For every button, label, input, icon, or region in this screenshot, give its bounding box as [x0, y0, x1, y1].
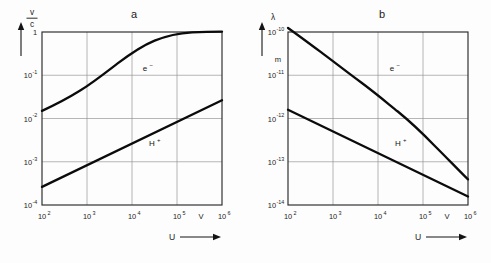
panel-a-ytick-1-exp: -1 — [33, 69, 38, 75]
figure-svg: a v c — [0, 0, 491, 263]
panel-a-yaxis-numerator: v — [30, 7, 35, 17]
panel-a-curve-label-electron: e − — [143, 62, 154, 74]
panel-a-xaxis-unit: V — [198, 212, 204, 221]
panel-b-ytick-1: 10 — [268, 71, 276, 80]
panel-a-title: a — [131, 8, 138, 20]
panel-b-ytick-labels: 10 -10 10 -11 10 -12 10 -13 10 -14 — [268, 26, 285, 210]
figure-container: a v c — [0, 0, 491, 263]
panel-a-ytick-4-exp: -4 — [33, 199, 38, 205]
panel-b-xtick-2: 10 — [374, 212, 382, 221]
panel-a-yaxis-denominator: c — [30, 19, 34, 29]
panel-a-xtick-2-exp: 4 — [138, 210, 141, 216]
panel-a-xtick-4-exp: 6 — [228, 210, 231, 216]
panel-a-ytick-3: 10 — [24, 158, 32, 167]
panel-b-curve-label-proton-text: H — [395, 139, 401, 148]
panel-b-ytick-0: 10 — [268, 28, 276, 37]
panel-a-xtick-0-exp: 2 — [48, 210, 51, 216]
panel-b-grid — [288, 32, 468, 205]
panel-b-xtick-0-exp: 2 — [294, 210, 297, 216]
panel-b-xtick-2-exp: 4 — [384, 210, 387, 216]
panel-a-xtick-1: 10 — [83, 212, 91, 221]
panel-b-xaxis-name: U — [415, 232, 421, 242]
panel-a-ytick-4: 10 — [24, 201, 32, 210]
panel-a: a v c — [18, 7, 231, 242]
panel-b-curve-label-electron: e − — [390, 62, 401, 74]
panel-b-title: b — [379, 8, 385, 20]
panel-b-ytick-4: 10 — [268, 201, 276, 210]
panel-b-xtick-3: 10 — [419, 212, 427, 221]
panel-b-ytick-1-exp: -11 — [277, 69, 284, 75]
panel-b-ytick-3-exp: -13 — [277, 156, 285, 162]
panel-b-ytick-2: 10 — [268, 115, 276, 124]
panel-b-curve-label-electron-text: e — [390, 64, 395, 73]
panel-a-ytick-2: 10 — [24, 115, 32, 124]
panel-b-yaxis-unit: m — [275, 55, 281, 64]
panel-b-ytick-2-exp: -12 — [277, 112, 285, 118]
panel-b-curve-label-electron-sup: − — [397, 62, 401, 68]
panel-b-xaxis-name-group: U — [415, 232, 467, 242]
panel-a-ytick-labels: 1 10 -1 10 -2 10 -3 10 -4 — [24, 28, 38, 210]
panel-b-xtick-1-exp: 3 — [339, 210, 342, 216]
panel-b-curve-label-proton-sup: + — [403, 137, 407, 143]
panel-b-ytick-3: 10 — [268, 158, 276, 167]
panel-a-xtick-2: 10 — [128, 212, 136, 221]
panel-b-curve-label-proton: H + — [395, 137, 407, 149]
panel-b-xtick-4: 10 — [464, 212, 472, 221]
panel-a-ytick-0: 1 — [33, 28, 37, 37]
panel-a-xtick-4: 10 — [218, 212, 226, 221]
panel-a-grid — [42, 32, 222, 205]
panel-a-xtick-3: 10 — [173, 212, 181, 221]
panel-a-curve-label-electron-text: e — [143, 64, 148, 73]
panel-a-ytick-2-exp: -2 — [33, 112, 38, 118]
panel-a-ytick-3-exp: -3 — [33, 156, 38, 162]
panel-b-xaxis-unit: V — [444, 212, 450, 221]
panel-b-yaxis-label: λ — [271, 12, 276, 22]
panel-b-xtick-0: 10 — [284, 212, 292, 221]
panel-b-yaxis-arrow — [259, 22, 265, 56]
panel-a-yaxis-label: v c — [27, 7, 38, 29]
panel-a-curve-label-proton-sup: + — [157, 137, 161, 143]
panel-b-xtick-1: 10 — [329, 212, 337, 221]
panel-a-xtick-1-exp: 3 — [93, 210, 96, 216]
panel-a-xtick-3-exp: 5 — [183, 210, 186, 216]
panel-b: b λ m 10 - — [259, 8, 477, 242]
panel-a-yaxis-arrow — [18, 22, 24, 56]
panel-b-ytick-0-exp: -10 — [277, 26, 285, 32]
panel-a-xaxis-name: U — [169, 232, 175, 242]
panel-a-ytick-1: 10 — [24, 71, 32, 80]
panel-a-curve-label-proton: H + — [149, 137, 161, 149]
panel-a-xaxis-name-group: U — [169, 232, 221, 242]
panel-b-ytick-4-exp: -14 — [277, 199, 285, 205]
panel-b-xtick-3-exp: 5 — [429, 210, 432, 216]
panel-a-xtick-0: 10 — [38, 212, 46, 221]
panel-a-curve-label-electron-sup: − — [150, 62, 154, 68]
panel-b-xtick-4-exp: 6 — [474, 210, 477, 216]
panel-a-curve-label-proton-text: H — [149, 139, 155, 148]
